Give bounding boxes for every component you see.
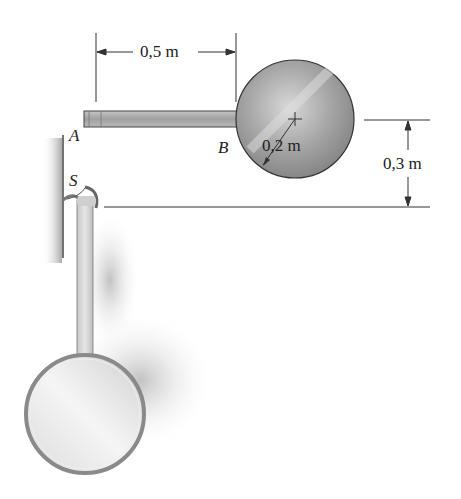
disk-radius-label: 0,2 m — [262, 137, 301, 154]
pendulum-diagram — [0, 0, 461, 499]
disk-hanging — [26, 355, 144, 473]
rod-hanging — [63, 187, 97, 358]
rod-ab — [84, 111, 240, 127]
rod-length-label: 0,5 m — [140, 43, 179, 60]
point-b-label: B — [218, 139, 228, 156]
disk-raised — [236, 60, 354, 178]
wall-support — [42, 135, 63, 263]
drop-height-label: 0,3 m — [383, 155, 422, 172]
point-s-label: S — [69, 172, 78, 189]
point-a-label: A — [69, 127, 79, 144]
